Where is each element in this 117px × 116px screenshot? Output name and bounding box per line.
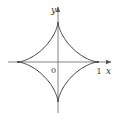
x-axis-label: x [106,66,111,76]
x-tick-label-1: 1 [97,67,102,76]
astroid-diagram: y x 0 1 [0,0,117,116]
y-axis-label: y [50,5,57,15]
left-cusp-point [17,61,19,63]
right-cusp-point [97,61,99,63]
origin-label: 0 [51,66,56,75]
